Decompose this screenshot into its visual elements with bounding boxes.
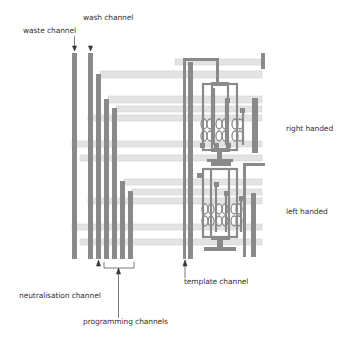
neutralisation-channel-label: neutralisation channel — [19, 292, 101, 300]
neutralisation-channel — [96, 74, 101, 259]
template-inner-bar — [188, 62, 193, 259]
programming-channel-3 — [120, 181, 125, 259]
programming-channels-label: programming channels — [83, 318, 168, 326]
waste-channel — [72, 53, 77, 259]
wash-channel — [88, 53, 93, 259]
right-handed-label: right handed — [286, 125, 333, 133]
left-handed-label: left handed — [286, 208, 328, 216]
wash-channel-label: wash channel — [83, 14, 133, 22]
microfluidic-chip-diagram: waste channel wash channel right handed … — [0, 0, 349, 348]
programming-channel-1 — [104, 99, 109, 259]
programming-channel-2 — [112, 108, 117, 259]
programming-channel-4 — [128, 191, 133, 259]
template-channel-label: template channel — [184, 278, 248, 286]
waste-channel-label: waste channel — [23, 27, 76, 35]
